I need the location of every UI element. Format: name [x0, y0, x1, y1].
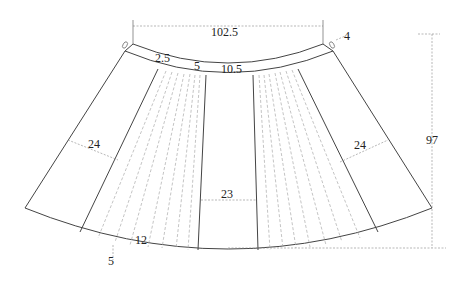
length-dimension — [228, 34, 446, 248]
skirt-pattern-diagram: 102.5 4 2.5 5 10.5 24 24 23 12 5 97 — [0, 0, 462, 284]
panel-seams — [80, 69, 378, 250]
label-hem-segment: 12 — [135, 233, 147, 247]
pleat-lines — [98, 70, 360, 250]
label-right-panel-width: 24 — [354, 138, 366, 152]
label-hem-offset: 5 — [108, 254, 114, 268]
label-left-panel-width: 24 — [88, 137, 100, 151]
label-waistband-overlap: 2.5 — [155, 51, 170, 65]
label-waistband-tab: 4 — [344, 29, 350, 43]
label-pleat-offset: 5 — [194, 59, 200, 73]
label-center-top: 10.5 — [221, 62, 242, 76]
label-waist-width: 102.5 — [211, 25, 238, 39]
label-skirt-length: 97 — [426, 133, 438, 147]
label-center-panel-width: 23 — [221, 187, 233, 201]
